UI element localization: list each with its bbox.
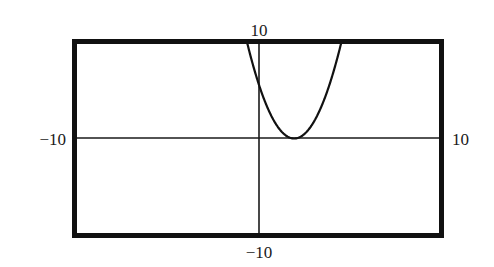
ymax-label: 10 xyxy=(251,21,268,40)
graph-window: 10 −10 −10 10 xyxy=(0,0,494,267)
xmax-label: 10 xyxy=(452,130,469,149)
xmin-label: −10 xyxy=(39,130,66,149)
ymin-label: −10 xyxy=(246,243,273,262)
